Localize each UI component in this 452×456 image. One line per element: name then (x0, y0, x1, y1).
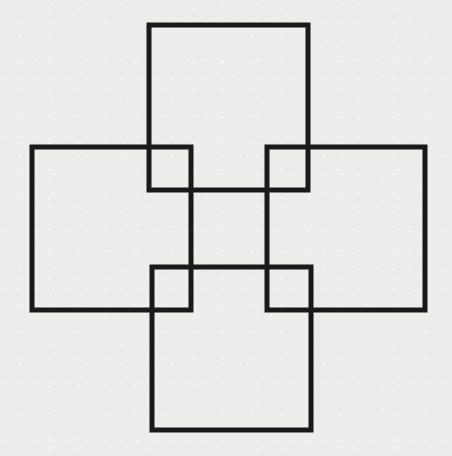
square-bottom (152, 267, 311, 430)
square-top (149, 25, 308, 190)
square-left (32, 147, 191, 310)
square-right (267, 147, 425, 310)
overlapping-squares-figure: Four overlapping squares in pinwheel arr… (0, 0, 452, 456)
figure-canvas: Four overlapping squares in pinwheel arr… (0, 0, 452, 456)
